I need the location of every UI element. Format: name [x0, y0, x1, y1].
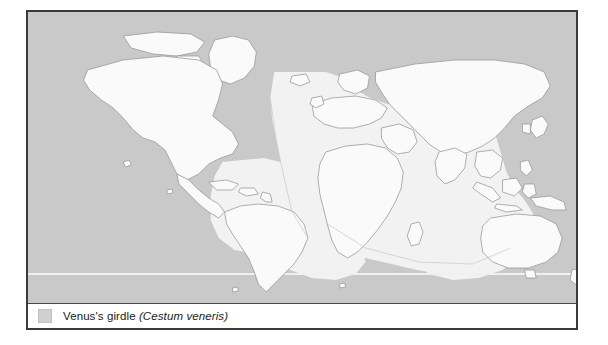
world-map-panel	[28, 12, 576, 303]
legend-label: Venus's girdle (Cestum veneris)	[63, 310, 228, 322]
land-tasmania	[524, 270, 536, 278]
shaded-area-swatch-icon	[38, 309, 52, 323]
land-atlantic-islet	[340, 283, 346, 288]
land-pacific-islet-b	[233, 287, 239, 292]
legend-common-name: Venus's girdle	[63, 310, 136, 322]
world-map-svg	[28, 12, 576, 303]
land-korea	[522, 124, 530, 134]
distribution-map-figure: Venus's girdle (Cestum veneris)	[26, 10, 578, 330]
legend-scientific-name: (Cestum veneris)	[139, 310, 228, 322]
map-legend: Venus's girdle (Cestum veneris)	[28, 304, 576, 328]
land-pacific-islet-a	[167, 189, 173, 194]
